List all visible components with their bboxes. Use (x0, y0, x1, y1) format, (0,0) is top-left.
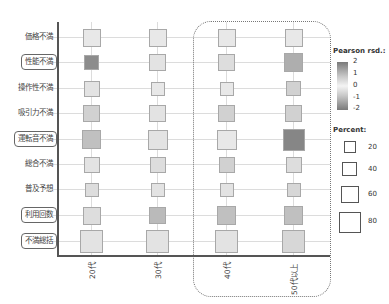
mosaic-cell (82, 130, 101, 149)
legend-size-label: 20 (368, 143, 377, 151)
legend-color-title: Pearson rsd.: (333, 47, 386, 55)
mosaic-cell (84, 81, 100, 97)
legend-size-box (339, 212, 361, 233)
legend-size-label: 60 (368, 190, 377, 198)
legend-color-tick: -2 (353, 104, 360, 112)
mosaic-cell (150, 157, 166, 173)
mosaic-cell (146, 230, 169, 253)
row-label: 不満総括 (21, 233, 57, 249)
mosaic-cell (83, 105, 100, 122)
mosaic-cell (83, 29, 101, 47)
mosaic-cell (85, 183, 99, 197)
row-label: 操作性不満 (18, 82, 53, 94)
legend-size-title: Percent: (333, 126, 366, 134)
row-label: 利用回数 (21, 207, 57, 223)
row-label: 総合不満 (25, 158, 53, 170)
legend-color-gradient (337, 62, 348, 110)
mosaic-cell (151, 183, 165, 197)
legend-size-box (341, 186, 359, 203)
mosaic-cell (80, 230, 103, 253)
mosaic-cell (149, 207, 166, 224)
legend-size-label: 40 (368, 165, 377, 173)
mosaic-cell (149, 54, 166, 71)
y-axis (57, 22, 59, 256)
column-label: 30代 (152, 262, 163, 279)
x-axis (57, 255, 330, 257)
mosaic-cell (151, 82, 165, 96)
row-label: 性能不満 (21, 54, 57, 70)
legend-color-tick: 2 (353, 57, 357, 65)
legend-color-tick: 1 (353, 69, 357, 77)
row-label: 価格不満 (25, 31, 53, 43)
legend-color-tick: 0 (353, 81, 357, 89)
legend-size-box (342, 162, 357, 176)
mosaic-cell (149, 29, 167, 47)
legend-size-box (344, 141, 356, 153)
mosaic-cell (148, 130, 168, 150)
row-label: 吸引力不満 (18, 107, 53, 119)
legend-color-tick: -1 (353, 93, 360, 101)
mosaic-cell (84, 55, 99, 70)
column-label: 20代 (86, 262, 97, 279)
mosaic-cell (149, 105, 166, 122)
row-label: 普及予想 (25, 183, 53, 195)
mosaic-cell (83, 207, 101, 225)
mosaic-cell (84, 157, 100, 173)
row-label: 運転音不満 (14, 131, 57, 147)
legend-size-label: 80 (368, 217, 377, 225)
